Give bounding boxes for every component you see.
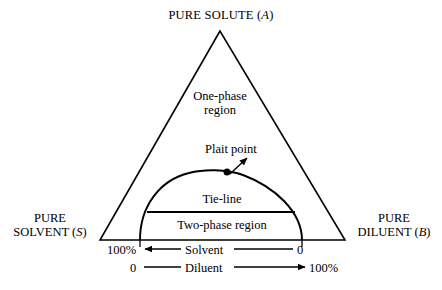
diluent-label-suffix: ): [426, 225, 430, 239]
plait-point-leader-arrow-icon: [230, 158, 247, 174]
diluent-axis-right-value: 100%: [309, 261, 338, 276]
one-phase-label-line1: One-phase: [193, 89, 246, 103]
solvent-axis-right-value: 0: [297, 243, 303, 258]
bottom-left-vertex-label: PURESOLVENT (S): [2, 211, 98, 239]
solvent-label-line1: PURE: [34, 211, 66, 225]
apex-label-prefix: PURE SOLUTE (: [168, 8, 261, 22]
diluent-axis-name: Diluent: [185, 261, 223, 276]
solvent-axis-left-value: 100%: [107, 243, 136, 258]
solvent-label-prefix: SOLVENT (: [13, 225, 76, 239]
diluent-label-prefix: DILUENT (: [357, 225, 418, 239]
two-phase-region-label: Two-phase region: [141, 218, 303, 232]
ternary-phase-diagram-figure: PURE SOLUTE (A) PURESOLVENT (S) PUREDILU…: [0, 0, 442, 290]
ternary-triangle-outline: [100, 31, 345, 240]
apex-component-symbol: A: [261, 8, 269, 22]
apex-vertex-label: PURE SOLUTE (A): [0, 8, 442, 22]
solvent-axis-name: Solvent: [185, 243, 223, 258]
apex-label-suffix: ): [269, 8, 273, 22]
bottom-right-vertex-label: PUREDILUENT (B): [347, 211, 441, 239]
tie-line-label: Tie-line: [162, 192, 282, 206]
solvent-label-suffix: ): [82, 225, 86, 239]
plait-point-marker: [224, 169, 231, 176]
one-phase-label-line2: region: [204, 103, 236, 117]
diluent-label-line1: PURE: [378, 211, 410, 225]
plait-point-label: Plait point: [205, 142, 257, 156]
one-phase-region-label: One-phaseregion: [160, 89, 280, 117]
diluent-axis-left-value: 0: [130, 261, 136, 276]
